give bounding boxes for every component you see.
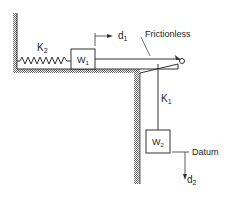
spring-k2-label: K2 (37, 42, 48, 54)
ledge-vertical-wall (134, 73, 140, 184)
frictionless-label: Frictionless (145, 29, 191, 39)
pulley (180, 59, 185, 64)
datum-label: Datum (192, 147, 219, 157)
diagram-canvas: K2 W1 d1 Frictionless K1 W2 Datum (0, 0, 234, 199)
displacement-d1-arrow (95, 33, 113, 46)
left-wall (13, 13, 17, 72)
spring-k2 (17, 57, 71, 64)
displacement-d2-label: d2 (187, 174, 197, 186)
frictionless-leader (141, 37, 181, 60)
spring-k1-label: K1 (161, 93, 172, 105)
displacement-d1-label: d1 (118, 30, 128, 42)
